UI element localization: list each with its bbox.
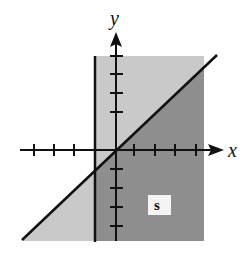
y-axis-label: y [108,7,119,30]
coordinate-plane: y x s [0,0,243,263]
region-label: s [154,197,160,213]
x-axis-label: x [227,139,237,161]
